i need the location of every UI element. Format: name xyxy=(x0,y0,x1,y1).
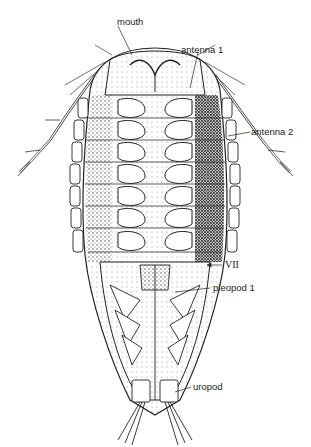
isopod-diagram: mouth antenna 1 antenna 2 VII pleopod 1 … xyxy=(0,0,311,447)
label-segment-vii: VII xyxy=(225,260,239,270)
label-pleopod-1: pleopod 1 xyxy=(213,283,255,293)
label-antenna-1: antenna 1 xyxy=(181,45,223,55)
label-antenna-2: antenna 2 xyxy=(251,127,293,137)
isopod-illustration xyxy=(0,0,311,447)
leader-mouth xyxy=(118,26,132,55)
label-mouth: mouth xyxy=(117,17,143,27)
label-uropod: uropod xyxy=(193,382,223,392)
